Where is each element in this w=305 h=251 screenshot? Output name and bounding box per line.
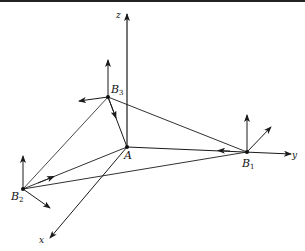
point-b1-label: B1 xyxy=(241,157,255,171)
z-axis-label: z xyxy=(115,10,121,20)
point-b3-subscript: 3 xyxy=(119,89,123,97)
line-b3-b2 xyxy=(23,97,108,189)
diagram-canvas: z y x A B1 B2 B3 xyxy=(0,0,305,251)
b3-frame-left xyxy=(79,97,108,101)
point-b3-letter: B xyxy=(110,83,119,96)
arrow-on-a-b1 xyxy=(218,151,230,152)
y-axis xyxy=(127,147,291,154)
line-b2-b1 xyxy=(23,152,247,189)
x-axis-label: x xyxy=(39,235,44,245)
y-axis-label: y xyxy=(291,150,298,160)
point-b3-label: B3 xyxy=(110,83,124,97)
point-b3 xyxy=(106,95,110,99)
point-b2-label: B2 xyxy=(10,190,24,204)
line-b3-b1 xyxy=(108,97,247,152)
point-b2-letter: B xyxy=(10,190,19,203)
b1-frame-diag xyxy=(247,127,271,152)
arrow-on-b2-a xyxy=(38,177,54,184)
x-axis xyxy=(50,147,127,238)
point-b2 xyxy=(21,187,25,191)
point-a-label: A xyxy=(123,149,132,162)
point-b1-subscript: 1 xyxy=(250,163,254,171)
b2-frame-diag xyxy=(23,189,50,208)
point-b1-letter: B xyxy=(241,157,250,170)
point-b1 xyxy=(245,150,249,154)
point-b2-subscript: 2 xyxy=(19,196,23,204)
